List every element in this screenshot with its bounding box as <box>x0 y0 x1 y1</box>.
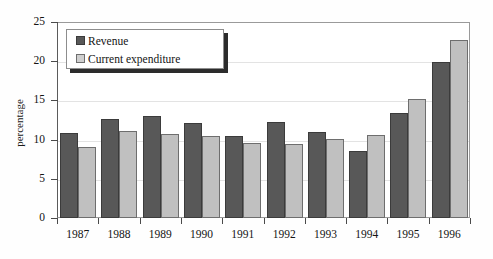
bar-expenditure-1988 <box>119 131 137 218</box>
bar-expenditure-1987 <box>78 147 96 218</box>
bar-revenue-1988 <box>101 119 119 218</box>
legend-entry-expenditure: Current expenditure <box>76 50 180 67</box>
x-axis-tick <box>57 218 58 224</box>
x-axis-tick <box>98 218 99 224</box>
bar-group <box>264 22 305 218</box>
y-axis-label: 0 <box>15 211 45 223</box>
bar-revenue-1992 <box>267 122 285 218</box>
legend-label-revenue: Revenue <box>88 35 128 47</box>
x-axis-tick <box>429 218 430 224</box>
bar-revenue-1987 <box>60 133 78 218</box>
bar-expenditure-1995 <box>408 99 426 218</box>
bar-revenue-1991 <box>225 136 243 218</box>
bar-revenue-1990 <box>184 123 202 218</box>
bar-chart: percentage 0510152025 198719881989199019… <box>0 0 493 259</box>
bar-expenditure-1990 <box>202 136 220 218</box>
bar-group <box>387 22 428 218</box>
chart-legend: Revenue Current expenditure <box>66 29 224 69</box>
bar-expenditure-1989 <box>161 134 179 218</box>
bar-expenditure-1991 <box>243 143 261 218</box>
bar-expenditure-1992 <box>285 144 303 218</box>
legend-label-expenditure: Current expenditure <box>88 53 180 65</box>
x-axis-tick <box>387 218 388 224</box>
y-axis-label: 25 <box>15 15 45 27</box>
legend-entry-revenue: Revenue <box>76 32 128 49</box>
x-axis-tick <box>305 218 306 224</box>
bar-revenue-1989 <box>143 116 161 218</box>
y-axis-title: percentage <box>13 78 25 168</box>
bar-revenue-1995 <box>390 113 408 218</box>
y-axis-label: 5 <box>15 172 45 184</box>
y-axis-label: 10 <box>15 133 45 145</box>
bar-expenditure-1996 <box>450 40 468 218</box>
x-axis-label: 1996 <box>425 228 473 240</box>
bar-revenue-1996 <box>432 62 450 218</box>
x-axis-tick <box>181 218 182 224</box>
bar-group <box>222 22 263 218</box>
bar-revenue-1993 <box>308 132 326 218</box>
legend-shadow-bottom <box>70 69 228 73</box>
y-axis-label: 15 <box>15 93 45 105</box>
x-axis-tick <box>222 218 223 224</box>
x-axis-tick <box>140 218 141 224</box>
legend-shadow-right <box>224 33 228 73</box>
x-axis-tick <box>264 218 265 224</box>
y-axis-label: 20 <box>15 54 45 66</box>
bar-group <box>346 22 387 218</box>
x-axis-tick <box>470 218 471 224</box>
legend-swatch-expenditure-icon <box>76 54 85 63</box>
bar-expenditure-1993 <box>326 139 344 218</box>
bar-group <box>305 22 346 218</box>
bar-expenditure-1994 <box>367 135 385 218</box>
x-axis-tick <box>346 218 347 224</box>
bar-revenue-1994 <box>349 151 367 218</box>
legend-swatch-revenue-icon <box>76 36 85 45</box>
bar-group <box>429 22 470 218</box>
